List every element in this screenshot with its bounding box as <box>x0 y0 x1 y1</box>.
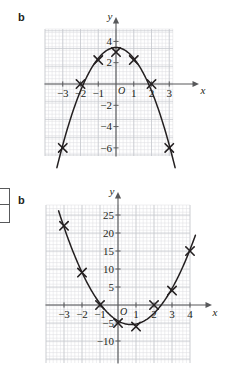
y-tick-label: 2 <box>107 56 113 68</box>
y-tick-label: 10 <box>103 263 115 275</box>
x-axis-label: x <box>200 84 206 96</box>
x-tick-label: −3 <box>57 87 69 99</box>
y-tick-label: −4 <box>100 120 112 132</box>
x-axis-label: x <box>212 306 218 318</box>
x-tick-label: −3 <box>58 308 70 320</box>
graph-panel-top: xyO−3−2−1123−6−4−224 <box>0 0 232 183</box>
y-axis-label: y <box>107 10 113 22</box>
coordinate-grid-bottom: xyO−3−2−11234−10−5510152025 <box>0 183 232 366</box>
x-tick-label: 1 <box>133 308 139 320</box>
origin-label: O <box>120 306 127 317</box>
plot-area-top: xyO−3−2−1123−6−4−224 <box>0 0 232 183</box>
y-tick-label: 5 <box>109 281 115 293</box>
y-axis-label: y <box>109 185 115 197</box>
coordinate-grid-top: xyO−3−2−1123−6−4−224 <box>0 0 232 183</box>
y-tick-label: 20 <box>103 227 115 239</box>
y-tick-label: −6 <box>100 142 112 154</box>
y-tick-label: −2 <box>100 99 112 111</box>
x-tick-label: 1 <box>131 87 137 99</box>
x-tick-label: −2 <box>76 308 88 320</box>
x-tick-label: 3 <box>167 87 173 99</box>
x-tick-label: 3 <box>169 308 175 320</box>
y-tick-label: 25 <box>103 209 115 221</box>
x-tick-label: 4 <box>187 308 193 320</box>
plot-area-bottom: xyO−3−2−11234−10−5510152025 <box>0 183 232 366</box>
y-tick-label: 4 <box>107 35 113 47</box>
origin-label: O <box>118 85 125 96</box>
y-tick-label: −10 <box>97 335 115 347</box>
y-tick-label: 15 <box>103 245 115 257</box>
graph-panel-bottom: xyO−3−2−11234−10−5510152025 <box>0 183 232 366</box>
y-tick-label: −5 <box>102 317 114 329</box>
x-tick-label: −1 <box>92 87 104 99</box>
